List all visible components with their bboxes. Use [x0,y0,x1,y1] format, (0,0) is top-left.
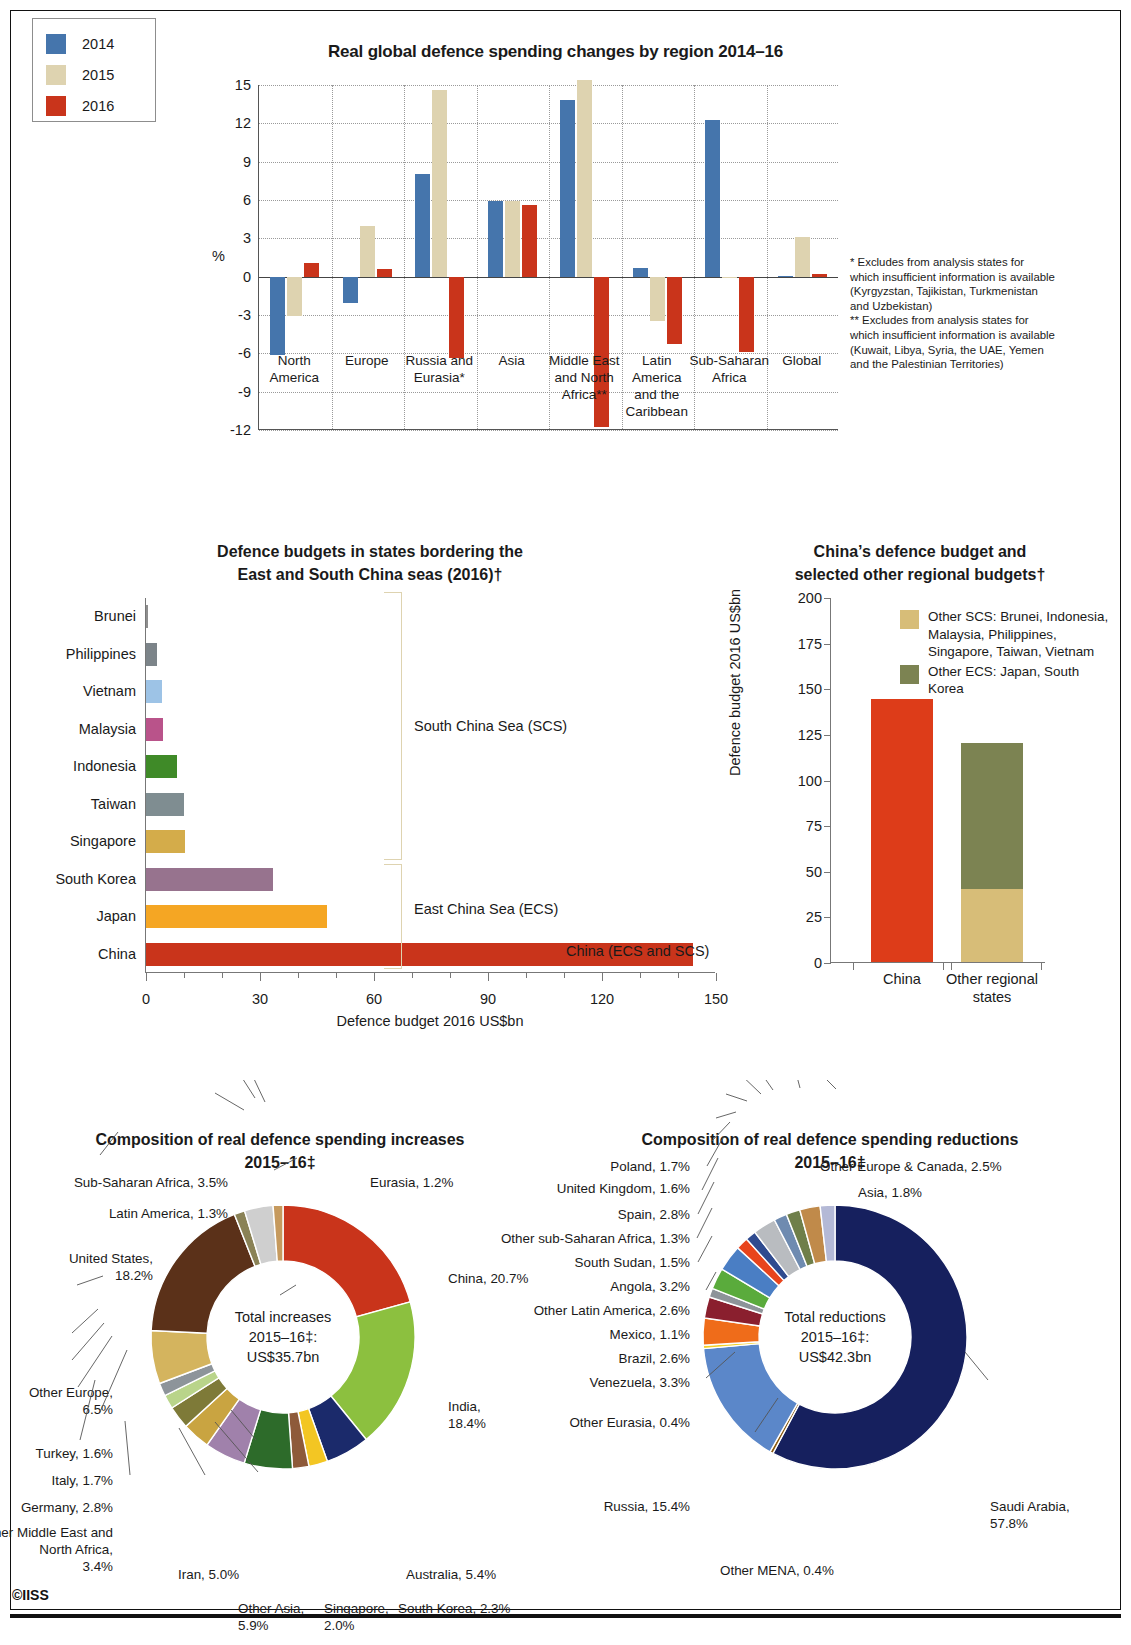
chart3-title: China’s defence budget and selected othe… [740,540,1100,586]
pie-label: Latin America, 1.3% [109,1205,228,1222]
chart2-bar-philippines [146,643,157,666]
chart3-y-tick-label: 125 [798,727,822,743]
chart3-y-tick-label: 75 [806,818,822,834]
chart2-x-axis-title: Defence budget 2016 US$bn [145,1013,715,1029]
chart2-x-minor-tick [184,973,185,978]
chart3-y-tick [824,644,831,645]
chart1-bar-2016-5 [667,277,682,345]
chart1-y-tick: 6 [243,192,251,208]
pie-label: Other Europe & Canada, 2.5% [820,1158,1002,1175]
chart1-bar-2015-2 [432,90,447,277]
chart1-bar-2016-2 [449,277,464,359]
donut-left-title: Composition of real defence spending inc… [20,1128,540,1174]
legend-label-2016: 2016 [82,98,114,114]
chart1-y-tick: -12 [230,422,251,438]
chart2-x-minor-tick [450,973,451,978]
pie-label: South Sudan, 1.5% [575,1254,690,1271]
chart3-y-tick [824,826,831,827]
chart2-x-tick [716,973,717,981]
chart2-plot-area: 0306090120150BruneiPhilippinesVietnamMal… [145,598,715,973]
chart2-title-line1: Defence budgets in states bordering the [40,540,700,563]
chart2-x-tick [602,973,603,981]
chart1-bar-2014-3 [488,201,503,276]
chart1-bar-2015-4 [577,80,592,277]
pie-label: Russia, 15.4% [604,1498,690,1515]
donut-left-center-line1: Total increases [235,1307,332,1327]
chart3-x-tick [1041,962,1042,970]
pie-label: Mexico, 1.1% [610,1326,690,1343]
chart2-x-minor-tick [640,973,641,978]
donut-reductions: Total reductions 2015–16‡: US$42.3bn [700,1202,970,1472]
chart1-bar-2014-6 [705,120,720,277]
chart3-x-tick [943,962,944,970]
legend-item-2015: 2015 [46,59,155,90]
chart1-bar-2014-0 [270,277,285,355]
chart2-row: Taiwan [146,786,715,824]
chart2-x-tick [488,973,489,981]
chart2-x-minor-tick [298,973,299,978]
pie-label: United Kingdom, 1.6% [557,1180,690,1197]
pie-label: Other MENA, 0.4% [720,1562,834,1579]
chart1-gridline [259,430,838,431]
chart2-row: Philippines [146,636,715,674]
chart2-category-label: China [98,943,136,966]
donut-right-center-text: Total reductions 2015–16‡: US$42.3bn [784,1307,886,1367]
chart3-title-line1: China’s defence budget and [740,540,1100,563]
chart2-brace-ecs [384,864,402,969]
pie-label: China, 20.7% [448,1270,528,1287]
pie-label: Other Middle East andNorth Africa,3.4% [0,1524,113,1575]
chart2-x-minor-tick [678,973,679,978]
footnote-double-asterisk: ** Excludes from analysis states for whi… [850,313,1055,371]
donut-left-title-line1: Composition of real defence spending inc… [20,1128,540,1151]
pie-label: Other Asia,5.9% [238,1600,304,1634]
chart2-x-minor-tick [222,973,223,978]
chart2-title-line2: East and South China seas (2016)† [40,563,700,586]
legend-swatch-2016 [46,96,66,116]
chart1-footnotes: * Excludes from analysis states for whic… [850,255,1055,372]
chart2-bar-taiwan [146,793,184,816]
chart2-x-tick-label: 30 [252,991,268,1007]
legend-label-other-scs: Other SCS: Brunei, Indonesia, Malaysia, … [928,608,1115,661]
chart2-bar-singapore [146,830,185,853]
chart2-row: Singapore [146,823,715,861]
pie-label: Turkey, 1.6% [36,1445,113,1462]
chart1-bar-2015-1 [360,226,375,277]
chart3-y-tick-label: 175 [798,636,822,652]
chart3-y-tick-label: 100 [798,773,822,789]
chart1-y-tick: 0 [243,269,251,285]
chart1-y-tick: -9 [238,384,251,400]
chart1-y-tick: 9 [243,154,251,170]
chart3-y-tick [824,781,831,782]
legend-label-2015: 2015 [82,67,114,83]
pie-label: United States,18.2% [69,1250,153,1284]
chart1-y-axis-label: % [212,248,225,264]
pie-label: Venezuela, 3.3% [589,1374,690,1391]
chart1-x-category-label: Global [757,352,847,369]
chart2-x-tick-label: 90 [480,991,496,1007]
chart2-annotation-scs: South China Sea (SCS) [414,718,567,734]
chart3-y-tick [824,689,831,690]
chart1-title: Real global defence spending changes by … [0,42,1111,62]
chart3-y-tick [824,735,831,736]
footnote-single-asterisk: * Excludes from analysis states for whic… [850,255,1055,313]
chart1-y-tick: 3 [243,230,251,246]
chart2-category-label: Malaysia [79,718,136,741]
legend-item-2014: 2014 [46,28,155,59]
chart3-category-label: Other regionalstates [927,970,1057,1006]
chart1-bar-2015-6 [722,277,737,278]
chart1-bar-2014-4 [560,100,575,276]
chart2-annotation-china: China (ECS and SCS) [566,943,709,959]
legend-swatch-2015 [46,65,66,85]
chart2-category-label: Indonesia [73,755,136,778]
chart1-bar-2016-6 [739,277,754,352]
chart2-row: Brunei [146,598,715,636]
chart3-y-tick [824,917,831,918]
chart1-bar-2016-0 [304,263,319,277]
chart1-bar-2015-7 [795,237,810,277]
chart3-y-axis-title: Defence budget 2016 US$bn [727,589,743,776]
chart2-bar-indonesia [146,755,177,778]
chart1-y-tick: 15 [235,77,251,93]
chart1-bar-2015-5 [650,277,665,322]
pie-label: Other Latin America, 2.6% [534,1302,690,1319]
chart2-x-tick-label: 0 [142,991,150,1007]
